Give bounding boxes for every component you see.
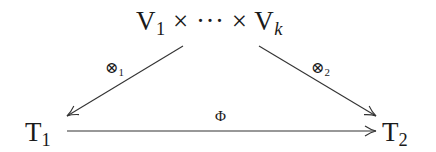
otimes-icon: ⊗	[105, 59, 118, 76]
label-tensor2: ⊗2	[311, 58, 330, 77]
node-t1: T1	[25, 117, 51, 148]
t1-sub: 1	[42, 130, 51, 150]
label-tensor1: ⊗1	[105, 58, 124, 77]
label-phi: Φ	[215, 108, 226, 125]
times-dots: × ··· ×	[166, 6, 254, 36]
t2-base: T	[382, 117, 399, 147]
v1-sub: 1	[156, 19, 166, 39]
phi-symbol: Φ	[215, 108, 226, 124]
node-product-space: V1 × ··· × Vk	[136, 6, 283, 37]
arrow-tensor2	[259, 46, 376, 116]
arrow-tensor1	[67, 46, 183, 116]
commutative-diagram: V1 × ··· × Vk T1 T2 ⊗1 ⊗2 Φ	[0, 0, 436, 152]
vk-sub: k	[274, 19, 283, 39]
tensor1-sub: 1	[118, 66, 123, 78]
t2-sub: 2	[399, 130, 408, 150]
otimes-icon: ⊗	[311, 59, 324, 76]
tensor2-sub: 2	[324, 66, 329, 78]
v1-base: V	[136, 6, 156, 36]
vk-base: V	[254, 6, 274, 36]
node-t2: T2	[382, 117, 408, 148]
t1-base: T	[25, 117, 42, 147]
